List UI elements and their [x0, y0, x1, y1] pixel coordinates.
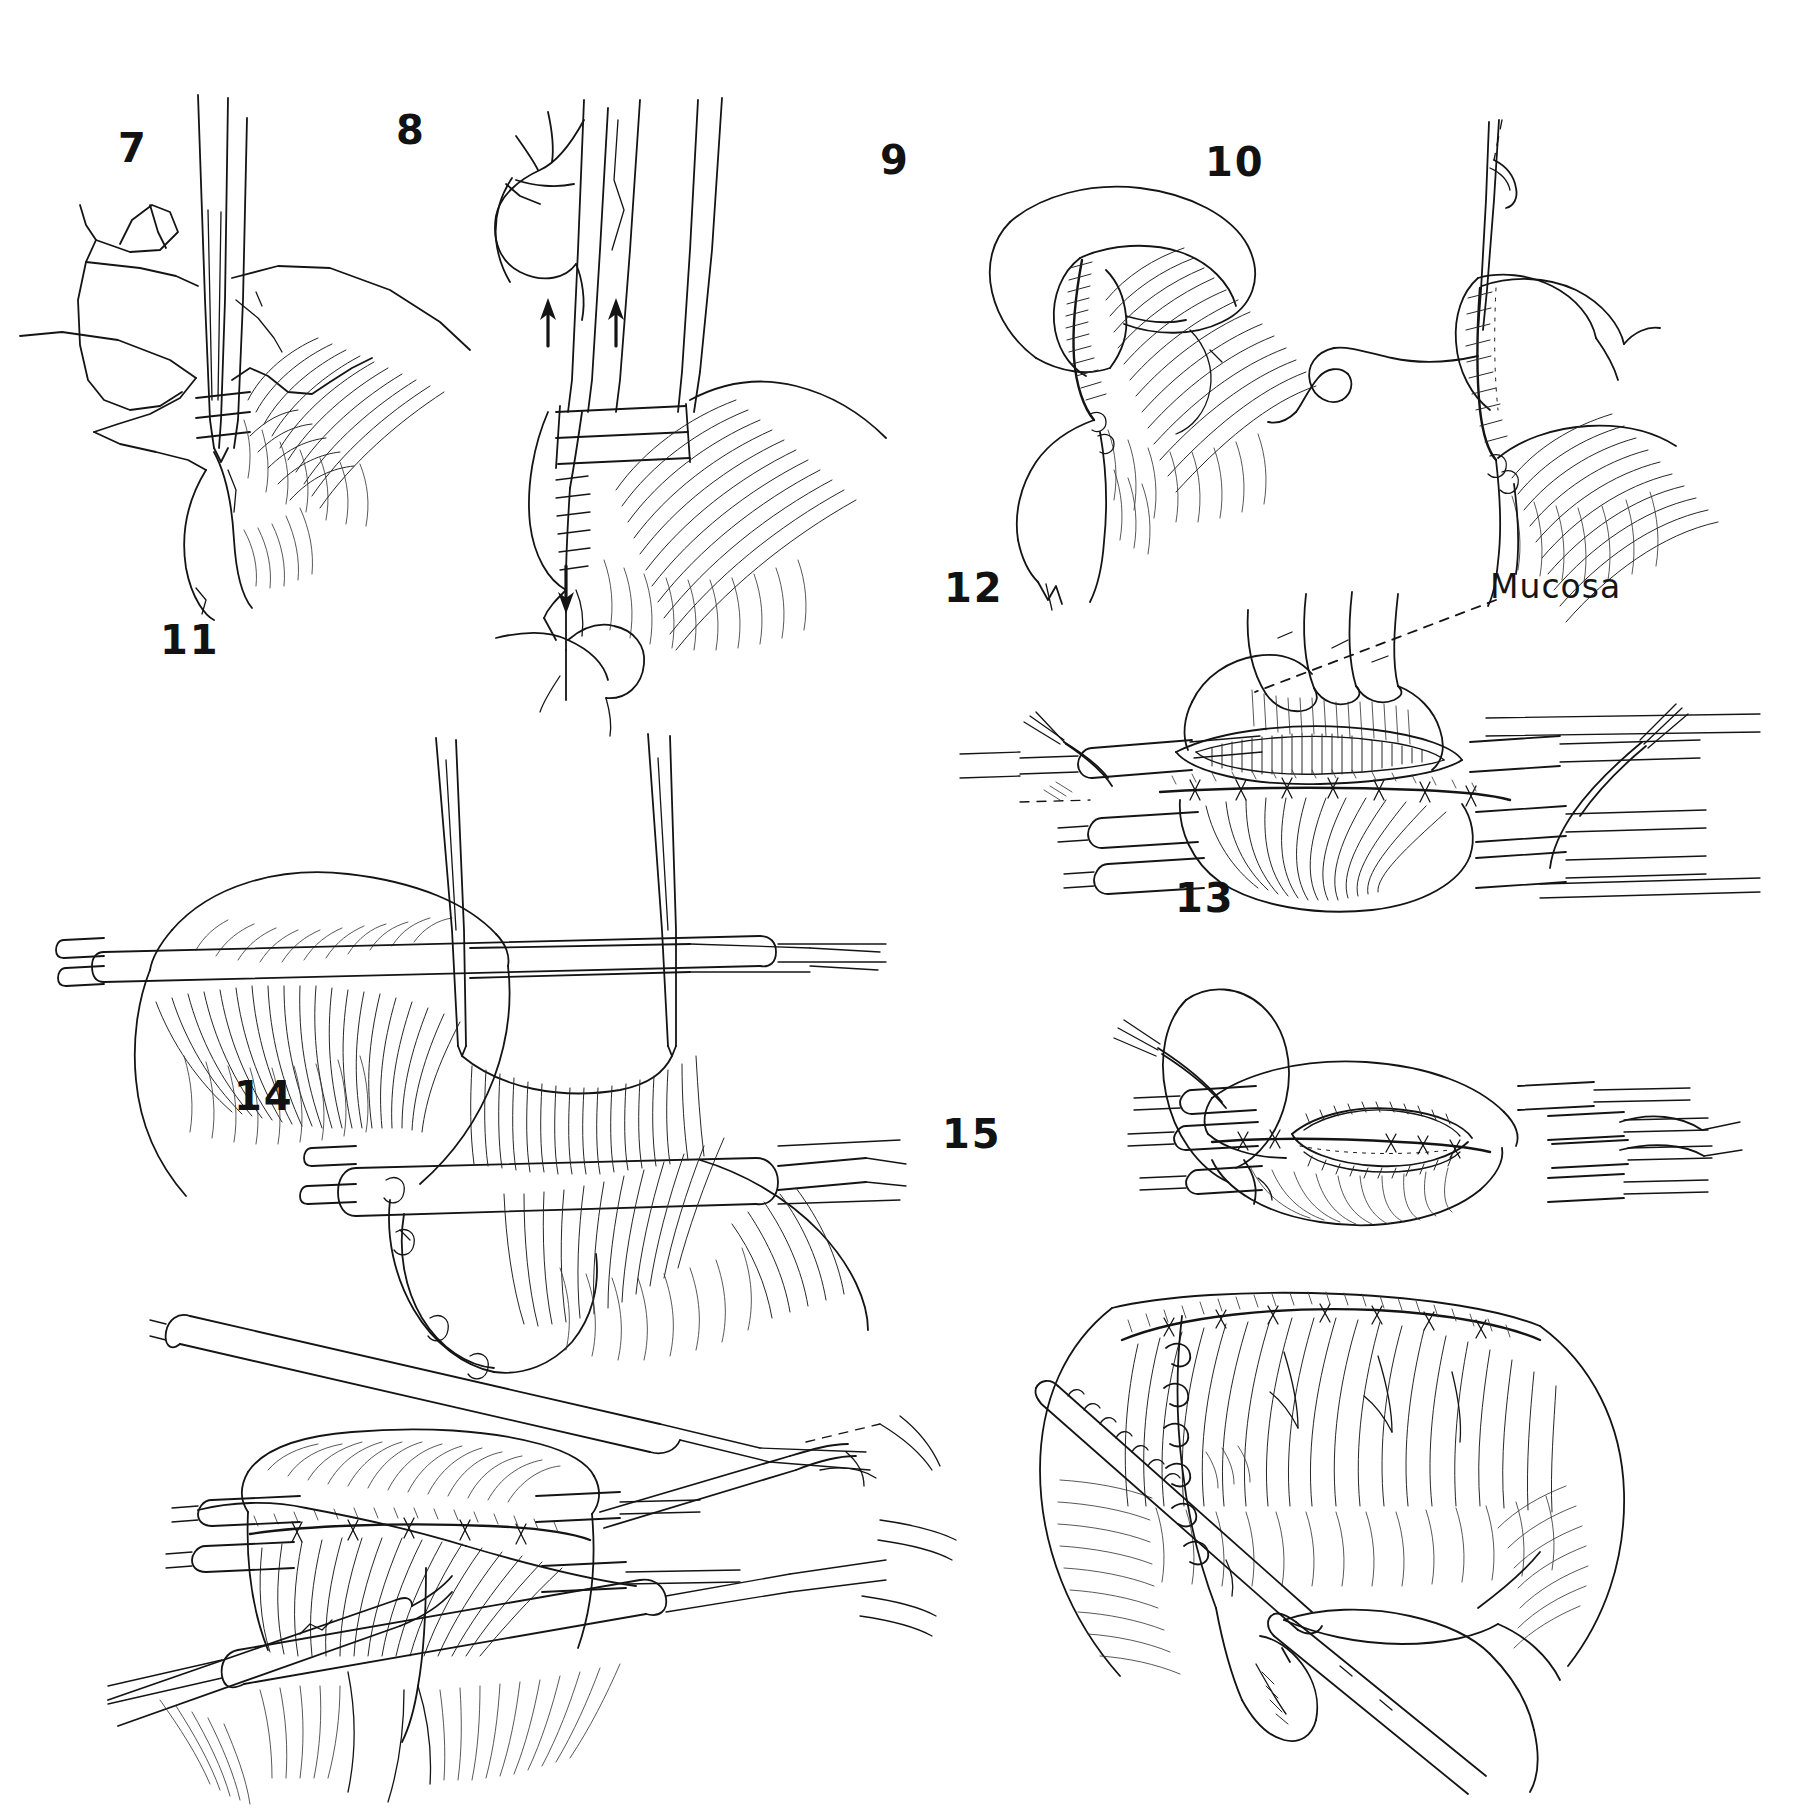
figure-9-artwork	[990, 187, 1316, 610]
figure-number-8: 8	[396, 110, 426, 150]
figure-12-artwork	[960, 592, 1760, 912]
figure-number-11: 11	[160, 620, 220, 660]
figure-10-artwork	[1268, 120, 1718, 622]
mucosa-label: Mucosa	[1490, 570, 1621, 603]
figure-number-14: 14	[234, 1076, 294, 1116]
fig12-lower-hatch	[1206, 798, 1446, 900]
figure-15-artwork	[1035, 1292, 1624, 1794]
fig15-scallops	[1156, 1496, 1554, 1586]
fig11-left-fan	[156, 986, 460, 1132]
figure-11-artwork	[56, 734, 906, 1379]
figure-number-7: 7	[118, 128, 148, 168]
figure-8-artwork	[495, 98, 886, 736]
fig14-drape	[160, 1664, 620, 1804]
fig11-center-hatch	[471, 1056, 704, 1174]
figure-14-artwork	[108, 1315, 956, 1804]
plate-artwork	[0, 0, 1795, 1809]
figure-7-artwork	[20, 95, 470, 620]
fig12-stitches	[1190, 778, 1476, 806]
mucosa-leader-line	[1255, 600, 1496, 692]
fig15-body-hatch	[1125, 1318, 1556, 1512]
fig11-bowl-hatch	[504, 1138, 724, 1326]
figure-number-13: 13	[1175, 878, 1235, 918]
figure-13-artwork	[1114, 989, 1742, 1225]
illustration-plate: 7 8 9 10 11 12 13 14 15 Mucosa	[0, 0, 1795, 1809]
figure-number-9: 9	[880, 140, 910, 180]
figure-number-15: 15	[942, 1114, 1002, 1154]
figure-number-10: 10	[1205, 142, 1265, 182]
figure-number-12: 12	[944, 568, 1004, 608]
